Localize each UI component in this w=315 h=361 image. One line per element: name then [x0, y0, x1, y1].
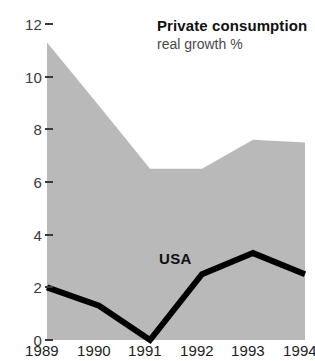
series-label-usa: USA: [159, 250, 192, 267]
range-band-area: [47, 42, 305, 340]
y-axis-tick-mark: [45, 76, 53, 78]
chart-subtitle: real growth %: [157, 36, 243, 52]
y-axis-tick-mark: [45, 128, 53, 130]
x-axis-tick-label: 1994: [283, 341, 315, 361]
y-axis-tick-label: 10: [0, 69, 42, 85]
x-axis-tick-label: 1992: [180, 341, 214, 361]
y-axis-tick-label: 8: [0, 121, 42, 137]
x-axis-tick-label: 1991: [128, 341, 162, 361]
y-axis-tick-mark: [45, 181, 53, 183]
y-axis-tick-mark: [45, 23, 53, 25]
x-axis-tick-label: 1993: [231, 341, 265, 361]
chart-title: Private consumption: [157, 17, 307, 34]
y-axis-tick-mark: [45, 286, 53, 288]
y-axis-tick-label: 2: [0, 279, 42, 295]
chart-container: 121086420 198919901991199219931994 Priva…: [0, 0, 315, 361]
y-axis-tick-label: 12: [0, 16, 42, 32]
x-axis-tick-label: 1990: [77, 341, 111, 361]
y-axis-tick-mark: [45, 234, 53, 236]
y-axis-tick-label: 6: [0, 174, 42, 190]
x-axis-tick-label: 1989: [25, 341, 59, 361]
y-axis-tick-label: 4: [0, 227, 42, 243]
